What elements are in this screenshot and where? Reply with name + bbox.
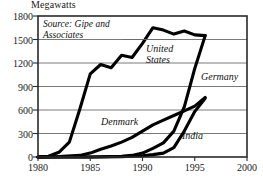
x-tick-label-2000: 2000	[237, 162, 257, 173]
wind-capacity-line-chart: Megawatts 1800 1500 1200 900 600 300 0	[0, 0, 263, 184]
series-label-united-states-line1: United	[146, 44, 173, 55]
x-tick-label-1990: 1990	[133, 162, 153, 173]
source-annotation-line2: Associates	[43, 30, 110, 41]
x-tick-label-1995: 1995	[185, 162, 205, 173]
source-annotation: Source: Gipe and Associates	[43, 19, 110, 42]
x-tick-label-1980: 1980	[28, 162, 48, 173]
series-label-united-states: United States	[146, 44, 173, 65]
series-label-germany: Germany	[201, 72, 238, 83]
series-label-united-states-line2: States	[146, 55, 173, 66]
x-tick-label-1985: 1985	[80, 162, 100, 173]
series-label-india: India	[182, 131, 203, 142]
source-annotation-line1: Source: Gipe and	[43, 19, 110, 30]
series-label-denmark: Denmark	[101, 117, 138, 128]
plot-area	[0, 0, 263, 184]
